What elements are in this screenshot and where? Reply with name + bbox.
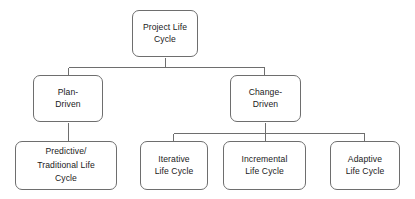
node-label: Iterative Life Cycle [152, 154, 197, 176]
node-change-driven[interactable]: Change- Driven [230, 75, 301, 122]
node-label: Project Life Cycle [140, 22, 190, 44]
node-label: Change- Driven [246, 87, 286, 109]
node-label: Adaptive Life Cycle [343, 154, 388, 176]
diagram-canvas: Project Life Cycle Plan- Driven Change- … [0, 0, 415, 199]
node-label: Predictive/ Traditional Life Cycle [34, 145, 98, 186]
node-predictive-traditional-life-cycle[interactable]: Predictive/ Traditional Life Cycle [15, 141, 117, 190]
node-incremental-life-cycle[interactable]: Incremental Life Cycle [223, 141, 306, 190]
node-project-life-cycle[interactable]: Project Life Cycle [132, 10, 198, 57]
node-label: Incremental Life Cycle [239, 154, 291, 176]
node-adaptive-life-cycle[interactable]: Adaptive Life Cycle [330, 141, 400, 190]
node-plan-driven[interactable]: Plan- Driven [33, 75, 103, 122]
node-label: Plan- Driven [52, 87, 83, 109]
node-iterative-life-cycle[interactable]: Iterative Life Cycle [140, 141, 208, 190]
